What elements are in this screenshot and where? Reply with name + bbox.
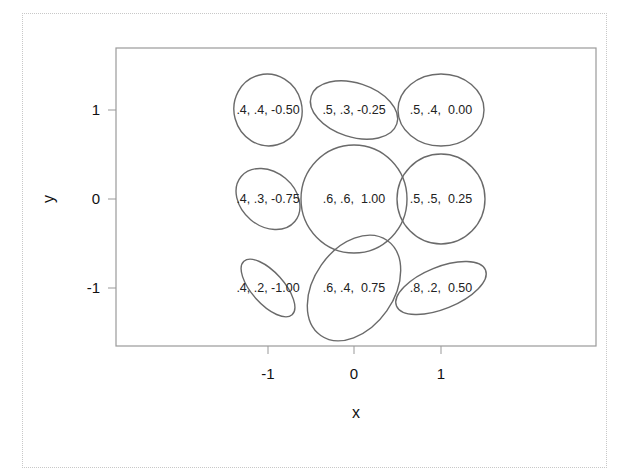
x-tick-label: 0: [350, 365, 358, 382]
ellipse-labels: .4, .4, -0.50 .5, .3, -0.25 .5, .4, 0.00…: [236, 103, 472, 295]
y-axis: 1 0 -1 y: [40, 101, 116, 296]
point-label: .5, .4, 0.00: [410, 103, 473, 117]
y-tick-label: 0: [92, 190, 100, 207]
point-label: .5, .5, 0.25: [410, 192, 473, 206]
x-tick-label: -1: [261, 365, 274, 382]
x-tick-label: 1: [437, 365, 445, 382]
point-label: .4, .2, -1.00: [236, 281, 299, 295]
point-label: .4, .3, -0.75: [236, 192, 299, 206]
point-label: .5, .3, -0.25: [322, 103, 385, 117]
point-label: .6, .6, 1.00: [323, 192, 386, 206]
y-tick-label: 1: [92, 101, 100, 118]
x-axis-label: x: [352, 404, 360, 421]
y-tick-label: -1: [87, 279, 100, 296]
y-axis-label: y: [40, 195, 57, 203]
point-label: .8, .2, 0.50: [410, 281, 473, 295]
point-label: .6, .4, 0.75: [323, 281, 386, 295]
point-label: .4, .4, -0.50: [236, 103, 299, 117]
chart: 1 0 -1 y -1 0 1 x .4, .4, -0.50 .5, .3, …: [0, 0, 625, 476]
x-axis: -1 0 1 x: [261, 346, 445, 421]
